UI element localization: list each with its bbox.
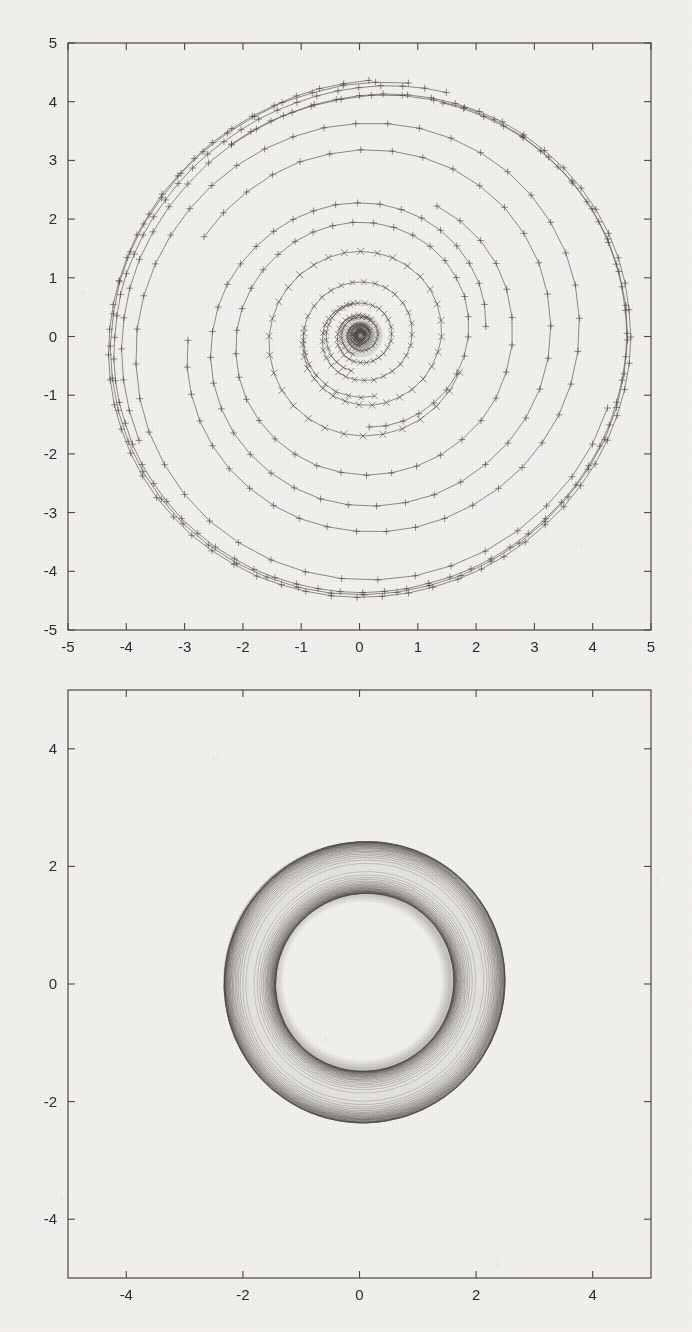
- x-tick-label: -4: [120, 638, 133, 655]
- x-tick-label: 0: [355, 638, 363, 655]
- x-tick-label: -5: [61, 638, 74, 655]
- x-tick-label: -2: [236, 638, 249, 655]
- top-plot-canvas: -5-4-3-2-1012345-5-4-3-2-1012345: [0, 0, 692, 666]
- y-tick-label: -4: [44, 1210, 57, 1227]
- y-tick-label: 4: [49, 740, 57, 757]
- x-tick-label: -2: [236, 1286, 249, 1303]
- x-tick-label: 5: [647, 638, 655, 655]
- y-tick-label: 2: [49, 210, 57, 227]
- x-tick-label: 1: [414, 638, 422, 655]
- x-tick-label: 3: [530, 638, 538, 655]
- y-tick-label: -3: [44, 504, 57, 521]
- y-tick-label: 0: [49, 975, 57, 992]
- bottom-limit-cycle-plot: -4-2024-4-2024: [0, 666, 692, 1332]
- x-tick-label: 2: [472, 1286, 480, 1303]
- y-tick-label: 4: [49, 93, 57, 110]
- x-tick-label: -3: [178, 638, 191, 655]
- y-tick-label: -2: [44, 445, 57, 462]
- x-tick-label: 2: [472, 638, 480, 655]
- y-tick-label: 3: [49, 151, 57, 168]
- y-tick-label: -1: [44, 386, 57, 403]
- orbit-family-group: [223, 841, 506, 1123]
- x-tick-label: 4: [589, 638, 597, 655]
- x-tick-label: 4: [589, 1286, 597, 1303]
- x-tick-label: -4: [120, 1286, 133, 1303]
- x-tick-label: 0: [355, 1286, 363, 1303]
- trajectory-group: [105, 77, 634, 601]
- top-phase-portrait-plot: -5-4-3-2-1012345-5-4-3-2-1012345: [0, 0, 692, 666]
- core-halo: [339, 313, 383, 357]
- y-tick-label: 5: [49, 34, 57, 51]
- y-tick-label: 2: [49, 857, 57, 874]
- y-tick-label: -5: [44, 621, 57, 638]
- x-tick-label: -1: [295, 638, 308, 655]
- bottom-plot-canvas: -4-2024-4-2024: [0, 666, 692, 1332]
- y-tick-label: 1: [49, 269, 57, 286]
- annulus-shading: [223, 841, 503, 1121]
- y-tick-label: -4: [44, 562, 57, 579]
- y-tick-label: -2: [44, 1093, 57, 1110]
- y-tick-label: 0: [49, 328, 57, 345]
